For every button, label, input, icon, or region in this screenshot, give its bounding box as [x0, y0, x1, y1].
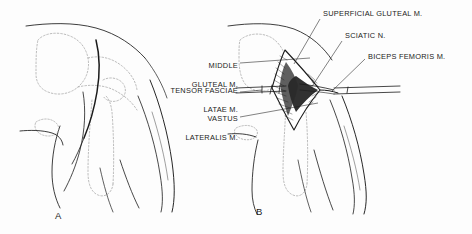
panel-letter-b: B: [256, 206, 262, 217]
leader-biceps-femoris: [332, 59, 365, 91]
biceps-inner-b: [330, 100, 354, 214]
leader-vastus-lateralis: [240, 103, 318, 117]
tensor-fascia-contour-a: [64, 92, 85, 191]
ilium-dotted-a: [36, 33, 89, 94]
label-superficial-gluteal: SUPERFICIAL GLUTEAL M.: [323, 9, 422, 18]
label-vastus-lateralis-line2: LATERALIS M.: [185, 133, 238, 142]
label-middle-gluteal-line1: MIDDLE: [209, 61, 238, 70]
label-sciatic-nerve: SCIATIC N.: [345, 31, 386, 40]
hamstring-tail-a2: [100, 168, 113, 212]
gluteal-muscle-edge-a: [84, 40, 99, 138]
label-tensor-fasciae-line1: TENSOR FASCIAE: [170, 86, 238, 95]
cranial-thigh-border-a: [52, 126, 60, 208]
label-vastus-lateralis: VASTUS LATERALIS M.: [108, 105, 238, 142]
leader-middle-gluteal: [240, 58, 310, 63]
retractor-instrument-right: [334, 86, 400, 94]
dorsal-contour-b: [228, 24, 332, 60]
cranial-thigh-border-b: [252, 140, 258, 214]
hamstring-tail-b: [314, 150, 333, 210]
hamstring-tail-a: [120, 160, 139, 208]
label-vastus-lateralis-line1: VASTUS: [207, 114, 238, 123]
panel-letter-a: A: [55, 210, 61, 221]
leader-sciatic: [311, 41, 342, 88]
biceps-shading-b: [344, 126, 360, 190]
label-biceps-femoris: BICEPS FEMORIS M.: [368, 52, 445, 61]
femur-shaft-dotted-b2: [306, 112, 308, 184]
hamstring-tail-b2: [298, 160, 311, 212]
patella-dotted-a: [35, 119, 59, 136]
